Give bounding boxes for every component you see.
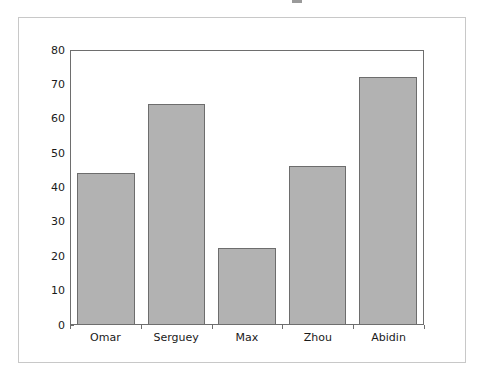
x-tick-slot-omar: Omar <box>70 327 141 351</box>
bar-serguey[interactable] <box>148 104 206 324</box>
x-tick-label-serguey: Serguey <box>154 327 199 343</box>
x-tick-label-omar: Omar <box>90 327 121 343</box>
bar-series <box>71 51 423 324</box>
y-tick-label: 30 <box>51 216 70 227</box>
y-tick-label: 20 <box>51 251 70 262</box>
y-tick-label: 40 <box>51 182 70 193</box>
bar-max[interactable] <box>218 248 276 324</box>
top-edge-artifact <box>292 0 302 3</box>
x-tick-label-abidin: Abidin <box>371 327 406 343</box>
x-tick-label-zhou: Zhou <box>304 327 332 343</box>
y-tick-label: 70 <box>51 79 70 90</box>
bar-abidin[interactable] <box>359 77 417 325</box>
x-tick-slot-abidin: Abidin <box>353 327 424 351</box>
y-tick-label: 80 <box>51 45 70 56</box>
bar-slot-max <box>212 51 282 324</box>
figure-root: 01020304050607080 OmarSergueyMaxZhouAbid… <box>0 0 487 380</box>
bar-zhou[interactable] <box>289 166 347 324</box>
y-tick-label: 50 <box>51 148 70 159</box>
x-tick-mark <box>424 325 425 329</box>
y-tick-label: 10 <box>51 285 70 296</box>
x-axis: OmarSergueyMaxZhouAbidin <box>70 327 424 351</box>
bar-slot-abidin <box>353 51 423 324</box>
plot-surface <box>71 51 423 324</box>
y-tick-label: 60 <box>51 113 70 124</box>
x-tick-slot-serguey: Serguey <box>141 327 212 351</box>
y-tick-label: 0 <box>58 320 70 331</box>
x-tick-slot-max: Max <box>212 327 283 351</box>
bar-omar[interactable] <box>77 173 135 324</box>
y-axis: 01020304050607080 <box>0 50 70 325</box>
bar-slot-serguey <box>141 51 211 324</box>
bar-slot-omar <box>71 51 141 324</box>
x-tick-label-max: Max <box>236 327 259 343</box>
x-tick-slot-zhou: Zhou <box>282 327 353 351</box>
bar-slot-zhou <box>282 51 352 324</box>
plot-axes <box>70 50 424 325</box>
